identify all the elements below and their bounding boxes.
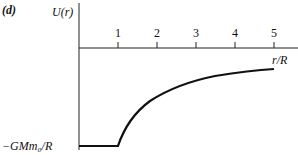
x-ticks (118, 42, 274, 48)
plot-area (0, 0, 298, 155)
potential-curve (79, 69, 274, 146)
